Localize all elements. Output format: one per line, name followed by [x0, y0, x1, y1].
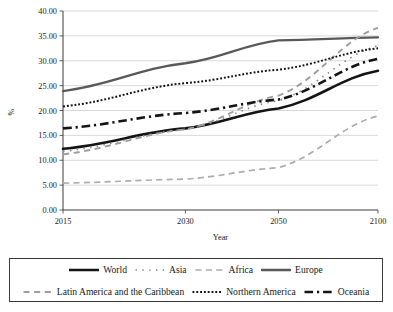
- y-tick-label: 35.00: [38, 32, 57, 41]
- series-line-africa: [63, 116, 378, 183]
- legend-line-swatch: [195, 265, 225, 275]
- data-series-group: [63, 28, 378, 183]
- y-axis-title: %: [7, 108, 16, 115]
- axis-labels-group: %Year: [7, 108, 228, 242]
- x-tick-label: 2050: [270, 217, 287, 226]
- legend-item-label: Europe: [295, 265, 323, 275]
- y-tick-label: 20.00: [38, 107, 57, 116]
- chart-screenshot: 0.005.0010.0015.0020.0025.0030.0035.0040…: [0, 0, 393, 312]
- legend-line-swatch: [23, 287, 53, 297]
- legend-line-swatch: [135, 265, 165, 275]
- legend-line-swatch: [261, 265, 291, 275]
- series-line-world: [63, 71, 378, 149]
- legend-line-swatch: [192, 287, 222, 297]
- legend-line-swatch: [304, 287, 334, 297]
- legend-item-africa[interactable]: Africa: [195, 265, 254, 275]
- y-tick-label: 5.00: [42, 181, 57, 190]
- y-tick-label: 15.00: [38, 131, 57, 140]
- legend-row: Latin America and the CaribbeanNorthern …: [10, 281, 382, 303]
- legend-item-label: Africa: [229, 265, 254, 275]
- legend-row: WorldAsiaAfricaEurope: [10, 259, 382, 281]
- gridlines: [63, 11, 378, 185]
- legend-item-oceania[interactable]: Oceania: [304, 287, 369, 297]
- legend-item-europe[interactable]: Europe: [261, 265, 323, 275]
- legend-item-world[interactable]: World: [69, 265, 127, 275]
- x-tick-label: 2030: [177, 217, 194, 226]
- x-tick-label: 2100: [370, 217, 387, 226]
- line-chart: 0.005.0010.0015.0020.0025.0030.0035.0040…: [0, 0, 393, 252]
- legend-item-label: Northern America: [226, 287, 296, 297]
- legend-item-latin-america-and-the-caribbean[interactable]: Latin America and the Caribbean: [23, 287, 184, 297]
- series-line-europe: [63, 37, 378, 91]
- y-tick-label: 40.00: [38, 7, 57, 16]
- y-tick-label: 30.00: [38, 57, 57, 66]
- legend-item-label: Latin America and the Caribbean: [57, 287, 184, 297]
- chart-legend: WorldAsiaAfricaEurope Latin America and …: [9, 258, 383, 302]
- legend-item-asia[interactable]: Asia: [135, 265, 187, 275]
- legend-item-label: Asia: [169, 265, 187, 275]
- chart-canvas: 0.005.0010.0015.0020.0025.0030.0035.0040…: [0, 0, 393, 252]
- y-tick-label: 0.00: [42, 206, 57, 215]
- legend-item-label: Oceania: [338, 287, 369, 297]
- y-axis-ticks: 0.005.0010.0015.0020.0025.0030.0035.0040…: [38, 7, 63, 215]
- x-axis-title: Year: [213, 233, 229, 242]
- x-tick-label: 2015: [55, 217, 72, 226]
- x-axis-ticks: 2015203020502100: [55, 210, 387, 226]
- y-tick-label: 25.00: [38, 82, 57, 91]
- legend-item-northern-america[interactable]: Northern America: [192, 287, 296, 297]
- legend-item-label: World: [103, 265, 127, 275]
- legend-line-swatch: [69, 265, 99, 275]
- y-tick-label: 10.00: [38, 156, 57, 165]
